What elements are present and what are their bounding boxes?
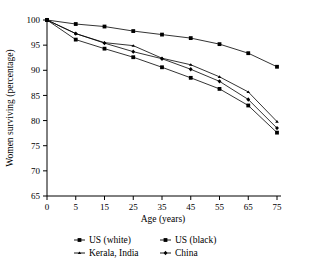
x-tick-label: 5 [74, 202, 79, 212]
y-axis-title: Women surviving (percentage) [5, 49, 16, 166]
data-point [131, 49, 135, 53]
x-axis-title: Age (years) [141, 214, 186, 225]
y-tick-label: 70 [31, 166, 41, 176]
data-point [74, 22, 78, 26]
data-point [74, 38, 78, 42]
data-point [131, 29, 135, 33]
x-tick-label: 0 [45, 202, 50, 212]
legend-item-kerala-india[interactable]: Kerala, India [74, 248, 139, 258]
figure: 65707580859095100 0515253545556575 Women… [0, 0, 309, 269]
y-tick-label: 95 [31, 40, 41, 50]
x-axis-ticks: 0515253545556575 [45, 196, 282, 212]
y-tick-label: 80 [31, 116, 41, 126]
data-point [189, 76, 193, 80]
x-tick-label: 35 [158, 202, 168, 212]
x-tick-label: 25 [129, 202, 139, 212]
legend-item-us-white[interactable]: US (white) [74, 235, 131, 246]
data-point [218, 87, 222, 91]
data-point [103, 47, 107, 51]
y-tick-label: 65 [31, 191, 41, 201]
x-tick-label: 15 [100, 202, 110, 212]
series-us-white [45, 18, 279, 69]
data-point [103, 25, 107, 29]
legend-item-us-black[interactable]: US (black) [160, 235, 216, 246]
legend-marker [164, 251, 168, 255]
data-point [189, 36, 193, 40]
y-tick-label: 75 [31, 141, 41, 151]
data-point [275, 131, 279, 135]
legend-marker [164, 238, 168, 242]
y-tick-label: 100 [27, 15, 41, 25]
y-tick-label: 85 [31, 91, 41, 101]
x-tick-label: 65 [244, 202, 254, 212]
y-tick-label: 90 [31, 65, 41, 75]
y-axis-ticks: 65707580859095100 [27, 15, 48, 201]
legend-label: US (white) [89, 235, 131, 246]
legend-label: Kerala, India [89, 248, 139, 258]
legend-label: US (black) [175, 235, 216, 246]
data-point [218, 42, 222, 46]
data-point [189, 67, 193, 71]
data-point [131, 55, 135, 59]
x-tick-label: 75 [273, 202, 283, 212]
data-point [160, 33, 164, 37]
x-tick-label: 55 [215, 202, 225, 212]
legend-label: China [175, 248, 198, 258]
data-point [160, 65, 164, 69]
data-series-group [45, 18, 279, 135]
survival-line-chart: 65707580859095100 0515253545556575 Women… [0, 0, 309, 269]
data-point [160, 57, 164, 61]
legend-marker [78, 238, 82, 242]
data-point [275, 65, 279, 69]
data-point [218, 79, 222, 83]
legend-item-china[interactable]: China [160, 248, 198, 258]
axes [47, 18, 281, 196]
data-point [246, 51, 250, 55]
x-tick-label: 45 [186, 202, 196, 212]
data-point [74, 31, 78, 35]
legend: US (white)US (black)Kerala, IndiaChina [74, 235, 216, 258]
data-point [103, 41, 107, 45]
data-point [246, 104, 250, 108]
series-line [47, 20, 277, 133]
